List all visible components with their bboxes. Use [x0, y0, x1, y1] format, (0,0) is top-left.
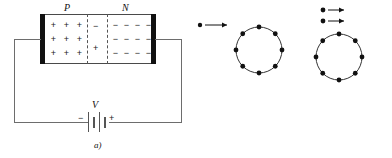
figure-root: P N + + + + + + + + + − + − − − − − − − … — [0, 0, 392, 158]
circuit-wire-left-vertical — [14, 39, 15, 122]
ring-electron-dot — [257, 25, 262, 30]
battery-voltage-label: V — [92, 99, 98, 110]
charge-symbol: + — [73, 19, 86, 33]
incoming-electron-dot — [321, 19, 326, 24]
charge-symbol: − — [132, 19, 143, 33]
charge-symbol: + — [47, 33, 60, 47]
battery-plate-long-icon — [88, 112, 89, 132]
circuit-wire-right-vertical — [181, 39, 182, 122]
depletion-boundary-left-icon — [87, 14, 88, 64]
charge-symbol: − — [132, 33, 143, 47]
incoming-electron-arrow-head-icon — [339, 8, 344, 13]
ring-electron-dot — [257, 71, 262, 76]
p-region-label: P — [64, 2, 70, 13]
p-region-charge-grid: + + + + + + + + + — [47, 19, 86, 60]
depletion-positive-charge: + — [93, 44, 98, 53]
charge-symbol: − — [143, 46, 154, 60]
incoming-electron-dot — [321, 8, 326, 13]
charge-symbol: − — [121, 19, 132, 33]
charge-symbol: + — [47, 46, 60, 60]
ring-electron-dot — [273, 64, 278, 69]
ring-electron-dot — [320, 71, 325, 76]
depletion-negative-charge: − — [93, 22, 98, 31]
battery-negative-terminal-label: − — [78, 113, 83, 123]
circuit-wire-right-horizontal — [155, 39, 182, 40]
charge-symbol: − — [143, 33, 154, 47]
depletion-boundary-right-icon — [107, 14, 108, 64]
incoming-electron-dot — [198, 23, 202, 27]
incoming-electron-arrow-head-icon — [222, 23, 227, 28]
ring-electron-dot — [320, 38, 325, 43]
charge-symbol: + — [60, 46, 73, 60]
panel-b-diagram — [196, 0, 296, 110]
ring-electron-dot — [337, 78, 342, 83]
ring-electron-dot — [337, 32, 342, 37]
panel-a-pn-junction-circuit: P N + + + + + + + + + − + − − − − − − − … — [0, 0, 196, 158]
battery-positive-terminal-label: + — [109, 113, 114, 123]
ring-electron-dot — [353, 71, 358, 76]
charge-symbol: + — [47, 19, 60, 33]
ring-electron-dot — [240, 64, 245, 69]
charge-symbol: − — [110, 33, 121, 47]
charge-symbol: − — [132, 46, 143, 60]
incoming-electron-arrow-head-icon — [339, 19, 344, 24]
charge-symbol: − — [110, 46, 121, 60]
charge-symbol: + — [73, 33, 86, 47]
ring-electron-dot — [234, 48, 239, 53]
panel-c-diagram — [296, 0, 392, 112]
panel-a-caption: a) — [94, 140, 102, 150]
charge-symbol: − — [110, 19, 121, 33]
charge-symbol: + — [60, 19, 73, 33]
battery-plate-long-icon — [99, 112, 100, 132]
ring-electron-dot — [360, 55, 365, 60]
ring-electron-dot — [353, 38, 358, 43]
panel-b-electron-ring: b) — [196, 0, 296, 158]
charge-symbol: − — [121, 46, 132, 60]
charge-symbol: − — [143, 19, 154, 33]
circuit-wire-bottom-left — [14, 122, 88, 123]
n-region-label: N — [122, 2, 129, 13]
ring-electron-dot — [240, 31, 245, 36]
circuit-wire-bottom-right — [109, 122, 182, 123]
n-region-charge-grid: − − − − − − − − − − − − — [110, 19, 154, 60]
charge-symbol: + — [73, 46, 86, 60]
charge-symbol: + — [60, 33, 73, 47]
circuit-wire-left-horizontal — [14, 39, 41, 40]
ring-electron-dot — [273, 31, 278, 36]
ring-electron-dot — [314, 55, 319, 60]
charge-symbol: − — [121, 33, 132, 47]
panel-c-electron-ring: c) — [296, 0, 392, 158]
battery-plate-short-icon — [104, 117, 106, 128]
battery-plate-short-icon — [93, 117, 95, 128]
ring-electron-dot — [280, 48, 285, 53]
